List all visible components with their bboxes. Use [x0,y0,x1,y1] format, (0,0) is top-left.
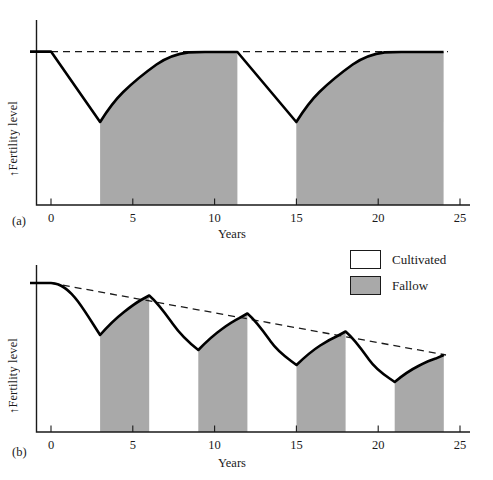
panel-b-fallow-bands [100,296,444,433]
panel-a-xtick-0: 0 [48,211,54,225]
panel-a-xtick-5: 25 [454,211,467,225]
fallow-band-b-2 [198,314,247,433]
panel-a-y-axis-title: Fertility level [6,101,21,171]
legend-swatch-fallow-icon [350,276,381,295]
panel-b-xtick-2: 10 [208,438,221,452]
legend-label-cultivated: Cultivated [392,252,446,268]
panel-b-y-axis-arrow: ↑ [8,408,20,414]
panel-b-xtick-0: 0 [48,438,54,452]
panel-b-x-tick-labels: 0 5 10 15 20 25 [48,438,466,452]
panel-b-xtick-4: 20 [372,438,385,452]
legend-swatch-cultivated-icon [350,250,381,269]
fallow-band-a-1 [100,52,237,205]
panel-b-y-axis-label: ↑ Fertility level [6,295,21,415]
panel-b-x-axis-title: Years [218,456,246,470]
panel-b-xtick-3: 15 [290,438,303,452]
panel-a-xtick-3: 15 [290,211,303,225]
legend: Cultivated Fallow [350,250,446,295]
panel-a-y-axis-arrow: ↑ [8,171,20,177]
fallow-band-b-1 [100,296,149,433]
panel-a-y-axis-label: ↑ Fertility level [6,58,21,178]
fallow-band-a-2 [296,52,443,205]
panel-a-plot: 0 5 10 15 20 25 Years (a) [0,0,493,240]
panel-a-fallow-bands [100,52,444,205]
panel-a-xtick-4: 20 [372,211,385,225]
legend-item-fallow: Fallow [350,276,446,295]
figure-fertility-fallow-cycles: 0 5 10 15 20 25 Years (a) ↑ Fertility le… [0,0,493,480]
panel-b-tag: (b) [12,445,27,459]
panel-b-xtick-1: 5 [130,438,136,452]
legend-label-fallow: Fallow [392,278,428,294]
legend-item-cultivated: Cultivated [350,250,446,269]
panel-a-x-tick-labels: 0 5 10 15 20 25 [48,211,466,225]
panel-a-xtick-1: 5 [130,211,136,225]
panel-a-xtick-2: 10 [208,211,221,225]
panel-b-y-axis-title: Fertility level [6,338,21,408]
fallow-band-b-3 [297,332,346,433]
panel-a-x-axis-title: Years [218,227,246,240]
panel-a-tag: (a) [12,214,26,228]
panel-b-xtick-5: 25 [454,438,467,452]
